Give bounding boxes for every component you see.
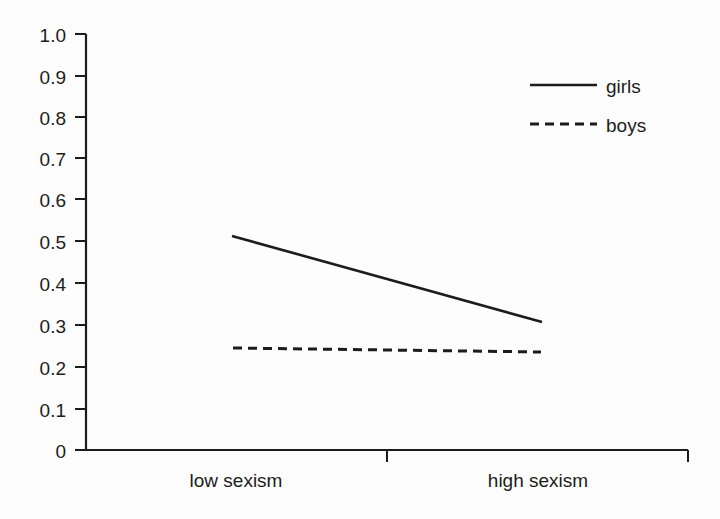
legend: girls boys	[530, 76, 646, 136]
y-label-0-3: 0.3	[40, 316, 66, 337]
y-axis-labels: 1.0 0.9 0.8 0.7 0.6 0.5 0.4 0.3 0.2 0.1 …	[40, 25, 67, 462]
chart-page: 1.0 0.9 0.8 0.7 0.6 0.5 0.4 0.3 0.2 0.1 …	[0, 0, 720, 519]
y-label-0-9: 0.9	[40, 67, 66, 88]
x-axis-ticks	[387, 450, 688, 462]
y-label-0: 0	[55, 441, 66, 462]
series-line-girls	[232, 236, 542, 322]
y-label-0-5: 0.5	[40, 232, 66, 253]
series-line-boys	[233, 348, 541, 352]
y-label-0-8: 0.8	[40, 108, 66, 129]
x-label-low-sexism: low sexism	[190, 470, 283, 491]
y-label-0-7: 0.7	[40, 149, 66, 170]
y-label-0-2: 0.2	[40, 358, 66, 379]
legend-label-girls: girls	[606, 76, 641, 97]
y-label-0-4: 0.4	[40, 274, 67, 295]
y-axis-ticks	[75, 34, 86, 450]
x-label-high-sexism: high sexism	[488, 470, 588, 491]
line-chart: 1.0 0.9 0.8 0.7 0.6 0.5 0.4 0.3 0.2 0.1 …	[0, 0, 720, 519]
x-axis-labels: low sexism high sexism	[190, 470, 589, 491]
y-label-0-6: 0.6	[40, 190, 66, 211]
y-label-0-1: 0.1	[40, 400, 66, 421]
y-label-1-0: 1.0	[40, 25, 66, 46]
legend-label-boys: boys	[606, 115, 646, 136]
